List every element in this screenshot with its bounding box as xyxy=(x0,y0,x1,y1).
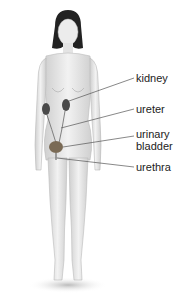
kidney-label: kidney xyxy=(136,72,168,84)
head xyxy=(58,19,78,45)
left-leg xyxy=(48,158,67,280)
right-kidney xyxy=(62,99,70,111)
floor-shadow xyxy=(28,277,108,293)
bladder xyxy=(49,141,63,153)
urinary-bladder-label-line2: bladder xyxy=(136,140,173,152)
ureter-label: ureter xyxy=(136,103,165,115)
left-kidney xyxy=(42,103,50,115)
urinary-bladder-label-line1: urinary xyxy=(136,128,170,140)
right-arm xyxy=(90,58,101,170)
urethra-label: urethra xyxy=(136,161,171,173)
urinary-system-diagram: kidney ureter urinary bladder urethra xyxy=(0,0,182,297)
right-leg xyxy=(69,158,88,280)
